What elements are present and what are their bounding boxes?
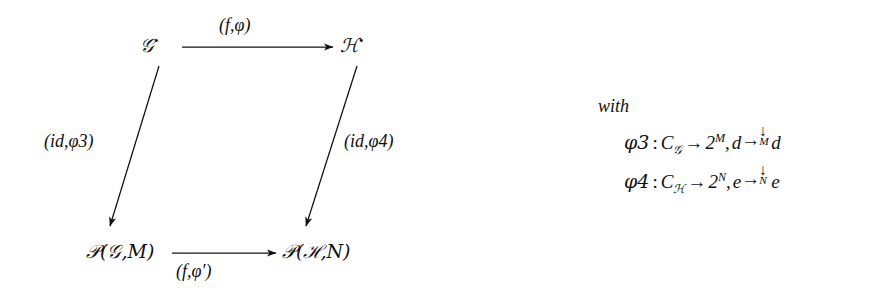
phi4-codomain-base: 2 bbox=[708, 171, 718, 192]
phi3-element: d bbox=[732, 132, 742, 153]
phi4-codomain-exponent: N bbox=[718, 169, 726, 183]
phi4-domain-symbol: C bbox=[661, 171, 674, 192]
formula-phi4: φ4:Cℋ→2N,e → ↓ N e bbox=[624, 169, 868, 197]
node-top-right-bullet: • bbox=[359, 33, 364, 48]
phi3-arrow: → bbox=[682, 132, 705, 153]
phi4-domain-subscript: ℋ bbox=[673, 182, 685, 196]
commutative-diagram-figure: 𝒢• ℋ• 𝒫(𝒢,M) 𝒫(ℋ,N) (f,φ) (id,φ3) (id,φ4… bbox=[0, 0, 870, 298]
edge-label-right: (id,φ4) bbox=[344, 132, 393, 150]
phi3-domain-symbol: C bbox=[661, 132, 674, 153]
node-top-left: 𝒢• bbox=[140, 36, 159, 55]
phi4-image: e bbox=[771, 171, 779, 192]
node-top-left-symbol: 𝒢 bbox=[140, 34, 154, 56]
phi4-mapsto-subscript: N bbox=[759, 174, 767, 187]
phi3-mapsto-operator: → ↓ M bbox=[741, 130, 771, 149]
phi3-colon: : bbox=[649, 132, 660, 153]
with-heading: with bbox=[598, 96, 868, 117]
node-top-left-bullet: • bbox=[154, 33, 159, 48]
phi4-mapsto-arrow: → bbox=[741, 168, 760, 190]
phi4-name: φ4 bbox=[624, 170, 649, 192]
node-top-right-symbol: ℋ bbox=[340, 34, 359, 56]
phi4-comma: , bbox=[726, 171, 733, 192]
phi3-mapsto-arrow: → bbox=[741, 129, 760, 151]
arrow-left-diagonal bbox=[110, 66, 159, 226]
edge-label-top: (f,φ) bbox=[219, 16, 250, 34]
node-bottom-right-functor: 𝒫 bbox=[282, 240, 296, 262]
node-bottom-left-args: (𝒢,M) bbox=[100, 240, 154, 262]
edge-label-bottom: (f,φ′) bbox=[176, 262, 211, 280]
phi3-codomain-base: 2 bbox=[705, 132, 715, 153]
phi3-codomain-exponent: M bbox=[715, 131, 725, 145]
phi3-name: φ3 bbox=[624, 131, 649, 153]
phi4-element: e bbox=[733, 171, 741, 192]
phi3-image: d bbox=[771, 132, 781, 153]
formula-phi3: φ3:C𝒢→2M,d → ↓ M d bbox=[624, 130, 868, 158]
node-bottom-left-functor: 𝒫 bbox=[86, 240, 100, 262]
node-bottom-left: 𝒫(𝒢,M) bbox=[86, 242, 154, 261]
phi4-arrow: → bbox=[685, 171, 708, 192]
edge-label-left: (id,φ3) bbox=[44, 132, 93, 150]
with-block: with φ3:C𝒢→2M,d → ↓ M d φ4:Cℋ→2N,e → ↓ N… bbox=[598, 96, 868, 208]
phi3-mapsto-subscript: M bbox=[759, 135, 769, 148]
phi3-comma: , bbox=[725, 132, 732, 153]
node-top-right: ℋ• bbox=[340, 36, 364, 55]
phi4-colon: : bbox=[649, 171, 660, 192]
phi4-mapsto-operator: → ↓ N bbox=[741, 169, 771, 188]
node-bottom-right: 𝒫(ℋ,N) bbox=[282, 242, 351, 261]
node-bottom-right-args: (ℋ,N) bbox=[296, 240, 351, 262]
